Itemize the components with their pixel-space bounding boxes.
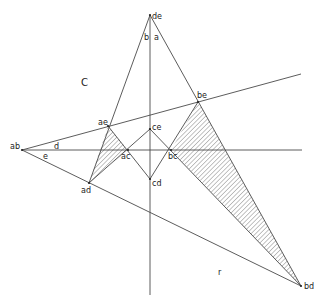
point-bc (170, 149, 172, 151)
region-label-e: e (43, 152, 48, 161)
label-bc: bc (168, 152, 177, 161)
region-label-a: a (154, 33, 159, 42)
label-bd: bd (304, 282, 314, 291)
point-ab (21, 149, 23, 151)
region-label-b: b (144, 33, 149, 42)
label-ac: ac (121, 152, 130, 161)
point-ad (88, 182, 90, 184)
label-ab: ab (10, 142, 20, 151)
stray-mark: r (218, 268, 222, 277)
region-label-C: C (81, 77, 88, 88)
force-diagram: de ab ae be ac bc ce cd ad bd b a C d e … (0, 0, 321, 305)
right-hatched-triangle (171, 102, 301, 286)
label-de: de (152, 12, 162, 21)
label-ce: ce (152, 123, 161, 132)
point-cd (149, 178, 151, 180)
point-ce (149, 128, 151, 130)
label-be: be (197, 91, 207, 100)
label-cd: cd (152, 179, 161, 188)
point-ac (127, 149, 129, 151)
region-label-d: d (54, 142, 59, 151)
label-ae: ae (98, 118, 108, 127)
point-de (149, 14, 151, 16)
point-be (197, 101, 199, 103)
line-ab-upper (22, 74, 301, 150)
label-ad: ad (81, 186, 91, 195)
point-bd (300, 285, 302, 287)
line-de-ad (89, 15, 150, 183)
